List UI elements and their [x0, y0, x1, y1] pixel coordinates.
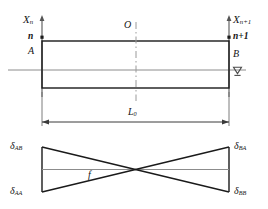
- diagram-canvas: Xn Xn+1 n n+1 A B O L0 δAB δAA δBA δBB f: [0, 0, 268, 209]
- delta-AB-subscript: AB: [15, 144, 23, 151]
- delta-label-AB: δAB: [10, 141, 22, 151]
- axis-label-right: Xn+1: [233, 14, 251, 26]
- axis-label-right-subscript: n+1: [240, 18, 251, 25]
- node-label-left: n: [28, 32, 33, 42]
- origin-label-O: O: [124, 20, 131, 30]
- delta-label-AA: δAA: [10, 186, 22, 196]
- axis-left-arrowhead-icon: [40, 15, 45, 21]
- delta-BA-subscript: BA: [239, 144, 247, 151]
- axis-label-left-symbol: X: [23, 13, 30, 25]
- dimension-label-subscript: 0: [134, 110, 137, 117]
- delta-AA-subscript: AA: [15, 189, 23, 196]
- diagram-vector-layer: [0, 0, 268, 209]
- node-marker-right: [227, 36, 230, 39]
- delta-label-BB: δBB: [234, 186, 246, 196]
- end-label-A: A: [28, 46, 34, 56]
- end-label-B: B: [233, 49, 239, 59]
- dimension-arrowhead-right-icon: [222, 120, 229, 125]
- delta-label-BA: δBA: [234, 141, 246, 151]
- dimension-arrowhead-left-icon: [42, 120, 49, 125]
- curve-label-f: f: [88, 170, 91, 180]
- axis-label-right-symbol: X: [233, 13, 240, 25]
- dimension-label-L0: L0: [128, 107, 137, 117]
- axis-right-arrowhead-icon: [227, 15, 232, 21]
- node-marker-left: [40, 36, 43, 39]
- delta-BB-subscript: BB: [239, 189, 247, 196]
- axis-label-left: Xn: [23, 14, 33, 26]
- node-label-right: n+1: [233, 32, 248, 42]
- axis-label-left-subscript: n: [30, 18, 33, 25]
